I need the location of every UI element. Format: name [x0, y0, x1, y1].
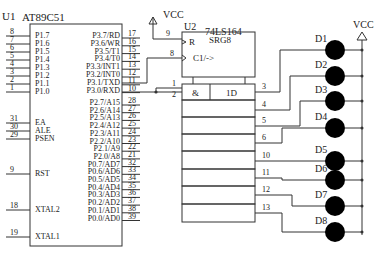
u2-output-pin: 11: [262, 168, 270, 177]
u2-output-pin: 6: [262, 133, 266, 142]
u1-microcontroller: U1 AT89C51 8P1.77P1.66P1.55P1.44P1.33P1.…: [2, 10, 140, 246]
u1-pin-name: XTAL1: [35, 232, 60, 241]
u2-input-pin-1: 1: [172, 79, 176, 88]
led-label: D1: [315, 33, 327, 44]
led-label: D4: [315, 111, 327, 122]
u1-pin-num: 29: [10, 130, 18, 139]
u1-pin-num: 9: [10, 165, 14, 174]
u1-pin-num: 19: [10, 228, 18, 237]
junction-dot: [154, 90, 157, 93]
led-icon: [325, 91, 345, 111]
u2-block-label: SRG8: [209, 35, 232, 45]
vcc-u2: VCC 9: [149, 9, 184, 39]
u1-pin-num: 10: [128, 84, 136, 93]
u2-output-pin: 3: [262, 82, 266, 91]
u2-output-pin: 5: [262, 116, 266, 125]
u2-output-pin: 12: [262, 185, 270, 194]
u1-pin-name: PSEN: [35, 134, 55, 143]
u2-and-label: &: [192, 88, 199, 98]
u1-part: AT89C51: [22, 11, 65, 23]
led-label: D6: [315, 163, 327, 174]
led-icon: [325, 222, 345, 242]
vcc-leds: VCC: [353, 19, 374, 235]
u2-shift-register: U2 74LS164 SRG8 R C1/-> & 1D: [182, 21, 255, 222]
u2-output-pin: 4: [262, 100, 266, 109]
u2-data-label: 1D: [226, 88, 238, 98]
led-label: D5: [315, 144, 327, 155]
led-outputs: 3D14D25D36D410D511D612D713D8: [255, 33, 364, 242]
led-icon: [325, 170, 345, 190]
u1-pin-name: RST: [35, 169, 50, 178]
clock-edge-icon: [182, 55, 186, 61]
u2-output-pin: 10: [262, 151, 270, 160]
u1-ref: U1: [2, 10, 15, 22]
led-label: D7: [315, 189, 327, 200]
u2-reset-label: R: [189, 37, 195, 47]
reset-marker-icon: [182, 40, 186, 44]
u2-input-pin-2: 2: [172, 90, 176, 99]
u1-pin-num: 39: [128, 212, 136, 221]
led-icon: [325, 40, 345, 60]
led-label: D8: [315, 215, 327, 226]
vcc-arrow-icon: [357, 32, 367, 40]
u1-pin-num: 1: [10, 83, 14, 92]
led-label: D3: [315, 84, 327, 95]
u2-ref: U2: [184, 21, 196, 32]
u2-output-pin: 13: [262, 203, 270, 212]
u2-clock-pin: 8: [170, 49, 174, 58]
u1-pin-name: P3.0/RXD: [86, 86, 120, 95]
led-icon: [325, 118, 345, 138]
u2-clock-label: C1/->: [193, 53, 214, 63]
u1-right-pins: 17P3.7/RD16P3.6/WR15P3.5/T114P3.4/T013P3…: [86, 29, 140, 223]
u1-left-pins: 8P1.77P1.66P1.55P1.44P1.33P1.22P1.11P1.0…: [6, 27, 60, 241]
u1-pin-name: XTAL2: [35, 205, 60, 214]
u1-pin-name: P0.0/AD0: [88, 214, 120, 223]
vcc-u2-label: VCC: [163, 9, 184, 20]
vcc-leds-label: VCC: [353, 19, 374, 30]
led-icon: [325, 151, 345, 171]
u1-pin-num: 18: [10, 201, 18, 210]
led-icon: [325, 66, 345, 86]
led-icon: [325, 196, 345, 216]
u1-pin-name: P1.0: [35, 87, 49, 96]
u2-reset-pin: 9: [166, 29, 170, 38]
led-label: D2: [315, 59, 327, 70]
